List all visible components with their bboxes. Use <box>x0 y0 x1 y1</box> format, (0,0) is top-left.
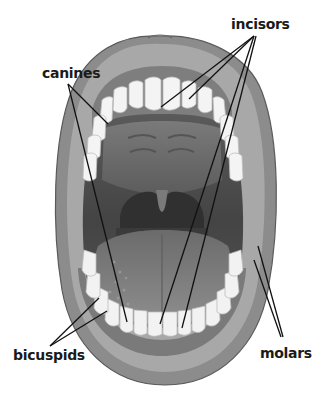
label-bicuspids: bicuspids <box>13 348 85 362</box>
mouth-teeth-diagram: incisors canines bicuspids molars <box>0 0 321 413</box>
palate <box>102 121 222 194</box>
label-incisors: incisors <box>231 17 290 31</box>
label-molars: molars <box>260 346 312 360</box>
label-canines: canines <box>42 66 100 80</box>
